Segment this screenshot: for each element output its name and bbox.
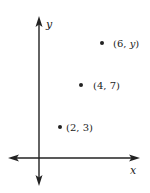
point-label-close: ) [89,122,93,133]
point-marker-icon [79,83,83,87]
point-label: (4, 7) [93,80,120,91]
coordinate-plane: y x (2, 3) (4, 7) (6, y) [0,0,150,193]
point-label-close: ) [116,80,120,91]
point-label-open: (6, [113,38,130,49]
point-label-open: (4, [93,80,110,91]
point-label-close: ) [135,38,139,49]
point-label: (6, y) [113,38,139,49]
point-label-open: (2, [66,122,83,133]
point-2-3: (2, 3) [58,122,93,133]
point-marker-icon [58,125,62,129]
point-6-y: (6, y) [100,38,139,49]
y-axis-label: y [45,18,53,31]
x-axis-label: x [130,164,137,177]
point-marker-icon [100,41,104,45]
y-axis: y [36,16,54,186]
point-label: (2, 3) [66,122,93,133]
x-axis: x [8,155,140,178]
point-4-7: (4, 7) [79,80,120,91]
